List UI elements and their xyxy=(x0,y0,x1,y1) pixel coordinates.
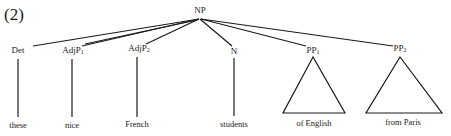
node-label: AdjP xyxy=(62,45,81,55)
leaf-these: these xyxy=(9,120,26,130)
branch-det xyxy=(33,19,199,46)
node-adjp1: AdjP1 xyxy=(62,45,84,55)
node-np: NP xyxy=(194,5,206,15)
tree-branches xyxy=(0,0,451,136)
node-label: PP xyxy=(393,43,403,53)
leaf-students: students xyxy=(220,119,248,129)
node-subscript: 1 xyxy=(317,49,320,55)
leaf-french: French xyxy=(125,119,149,129)
node-label: N xyxy=(231,46,238,56)
node-subscript: 2 xyxy=(404,47,407,53)
node-n: N xyxy=(231,46,238,56)
node-label: Det xyxy=(12,45,25,55)
leaf-from-paris: from Paris xyxy=(385,117,421,127)
node-label: PP xyxy=(306,45,316,55)
node-pp2: PP2 xyxy=(393,43,406,53)
triangle-pp1 xyxy=(283,57,345,113)
node-subscript: 2 xyxy=(147,47,150,53)
branch-adjp1-double xyxy=(85,20,197,44)
node-det: Det xyxy=(12,45,25,55)
node-subscript: 1 xyxy=(81,49,84,55)
node-pp1: PP1 xyxy=(306,45,319,55)
node-adjp2: AdjP2 xyxy=(128,43,150,53)
branch-pp2 xyxy=(201,19,393,46)
node-label: AdjP xyxy=(128,43,147,53)
leaf-of-english: of English xyxy=(296,118,331,128)
triangle-pp2 xyxy=(366,57,442,113)
leaf-nice: nice xyxy=(65,120,79,130)
example-number: (2) xyxy=(4,5,24,25)
